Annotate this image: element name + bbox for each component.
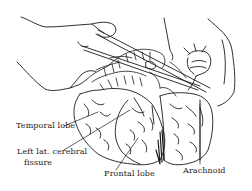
fissure-shading <box>156 130 164 164</box>
label-temporal-lobe: Temporal lobe <box>16 122 75 130</box>
right-hemisphere-drawing <box>160 93 213 165</box>
left-hand-drawing <box>17 17 116 91</box>
label-left-lateral-cerebral-fissure-line2: fissure <box>24 159 52 167</box>
left-hemisphere-drawing <box>74 89 165 165</box>
anatomical-illustration: Temporal lobe Left lat. cerebral fissure… <box>0 0 252 191</box>
label-arachnoid: Arachnoid <box>183 167 226 175</box>
scissors-drawing <box>82 30 210 92</box>
label-left-lateral-cerebral-fissure-line1: Left lat. cerebral <box>17 148 87 156</box>
label-frontal-lobe: Frontal lobe <box>104 170 155 178</box>
